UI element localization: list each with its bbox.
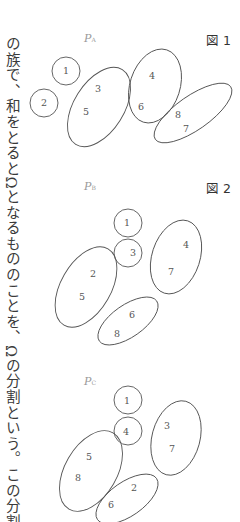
set-2-6 [88,464,166,522]
set-6-8 [90,288,166,354]
element-label: 2 [90,268,96,279]
element-label: 8 [175,109,181,120]
element-label: 3 [130,247,136,258]
set-2-5 [42,236,129,337]
partition-diagrams: 1 2 3 5 4 6 8 7 1 3 2 5 4 7 6 8 1 4 5 [0,0,240,522]
set-4-7 [141,213,210,300]
element-label: 7 [183,123,189,134]
element-label: 1 [124,217,130,228]
element-label: 2 [41,97,47,108]
element-label: 4 [149,70,155,81]
figure-2-diagram: 1 3 2 5 4 7 6 8 [42,209,210,354]
figure-3-diagram: 1 4 5 8 3 7 2 6 [46,386,209,522]
element-label: 3 [95,83,101,94]
element-label: 5 [83,106,89,117]
element-label: 2 [131,482,137,493]
element-label: 8 [75,472,81,483]
element-label: 3 [164,420,170,431]
element-label: 5 [86,451,92,462]
set-3 [114,239,142,267]
element-label: 7 [169,443,175,454]
set-3-7 [143,395,209,481]
element-label: 1 [124,395,130,406]
element-label: 4 [183,239,189,250]
element-label: 1 [63,65,69,76]
element-label: 5 [79,291,85,302]
element-label: 6 [129,309,135,320]
element-label: 6 [138,101,144,112]
element-label: 6 [108,499,114,510]
element-label: 4 [123,426,129,437]
element-label: 8 [114,328,120,339]
set-8-7 [146,73,240,154]
element-label: 7 [168,266,174,277]
figure-1-diagram: 1 2 3 5 4 6 8 7 [30,42,240,157]
